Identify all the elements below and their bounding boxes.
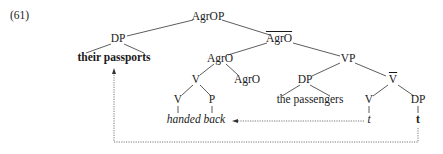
arrowhead-icon <box>232 119 238 123</box>
tree-branches <box>0 0 443 154</box>
movement-arrows <box>114 73 418 142</box>
node-v-head: V <box>174 93 182 106</box>
node-agro-inner: AgrO <box>234 73 260 86</box>
node-p-head: P <box>209 93 215 106</box>
node-dp-passengers: DP <box>298 73 313 86</box>
node-v-bar: V <box>389 73 397 86</box>
leaf-dp-trace: t <box>416 113 420 126</box>
node-spec-dp: DP <box>111 32 126 45</box>
leaf-the-passengers: the passengers <box>277 93 344 106</box>
node-vp: VP <box>341 52 356 65</box>
leaf-v-trace: t <box>367 113 370 126</box>
arrowhead-icon <box>112 68 116 74</box>
example-number: (61) <box>10 9 29 21</box>
node-dp-obj: DP <box>411 93 426 106</box>
node-agrop: AgrOP <box>192 10 225 23</box>
node-agro-bar: AgrO <box>266 32 292 45</box>
node-agro: AgrO <box>207 52 233 65</box>
leaf-handed-back: handed back <box>167 113 225 126</box>
leaf-their-passports: their passports <box>78 51 151 64</box>
node-v-complex: V <box>192 73 200 86</box>
node-v-trace: V <box>365 93 373 106</box>
